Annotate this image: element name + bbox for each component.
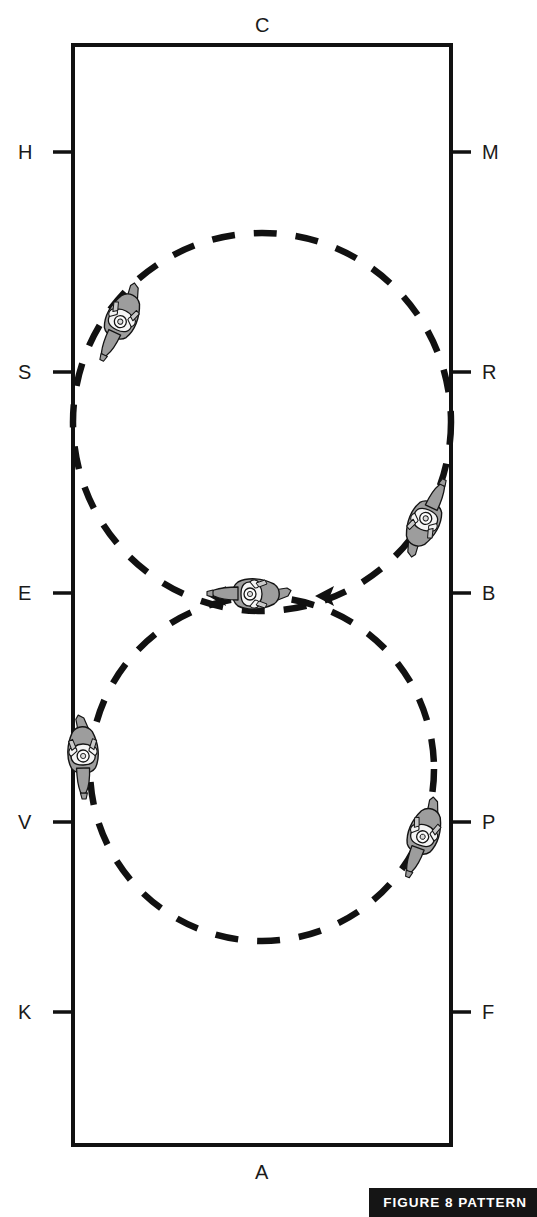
figure-caption-banner: FIGURE 8 PATTERN <box>369 1188 537 1217</box>
arena-letter-M: M <box>482 142 499 162</box>
rider-upper-left <box>88 278 151 367</box>
figure-page: C A H S E V K M R B P F FIGURE 8 PATTERN <box>0 0 537 1217</box>
arena-letter-H: H <box>18 142 33 162</box>
arena-letter-B: B <box>482 583 496 603</box>
arena-letter-S: S <box>18 362 32 382</box>
arena-letter-E: E <box>18 583 32 603</box>
arena-letter-C: C <box>255 15 270 35</box>
arena-letter-R: R <box>482 362 497 382</box>
arena-letter-K: K <box>18 1002 32 1022</box>
lower-circle-path <box>90 597 434 941</box>
arena-letter-V: V <box>18 812 32 832</box>
figure-8-diagram <box>0 0 537 1217</box>
rider-figures <box>67 278 458 882</box>
arena-letter-F: F <box>482 1002 495 1022</box>
arena-letter-A: A <box>255 1162 269 1182</box>
arena-letter-P: P <box>482 812 496 832</box>
